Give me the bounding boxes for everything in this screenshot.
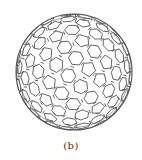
sphere-mesh-figure xyxy=(0,0,142,160)
figure-caption: (b) xyxy=(0,140,142,151)
